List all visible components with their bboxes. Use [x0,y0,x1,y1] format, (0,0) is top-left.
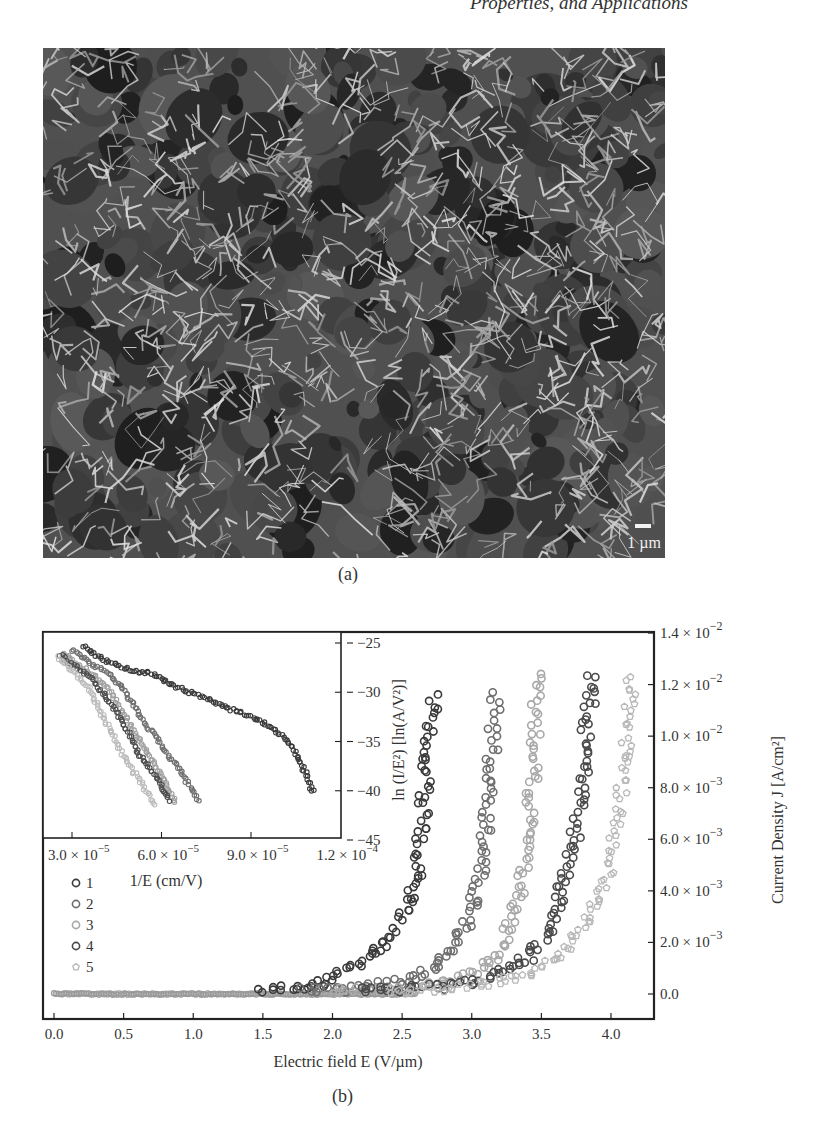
x-axis-title: Electric field E (V/µm) [273,1053,422,1071]
running-header: Properties, and Applications [470,0,688,14]
panel-label-b: (b) [332,1086,353,1107]
x-tick-label: 0.0 [45,1026,64,1042]
inset-y-axis-title: ln (I/E²) [ln(A/V²)] [390,679,408,801]
legend-label: 2 [86,896,94,912]
inset-y-tick-label: −25 [357,635,380,651]
x-tick-label: 3.0 [462,1026,481,1042]
x-tick-label: 2.0 [323,1026,342,1042]
scale-bar-label: 1 µm [627,534,661,552]
legend-label: 5 [86,959,94,975]
legend-label: 1 [86,875,94,891]
y-tick-label: 4.0 × 10−3 [660,877,723,899]
field-emission-chart: 0.00.51.01.52.02.53.03.54.0Electric fiel… [0,590,834,1137]
y-tick-label: 1.2 × 10−2 [660,671,723,693]
panel-label-a: (a) [338,564,358,585]
inset-y-tick-label: −40 [357,783,380,799]
inset-x-axis-title: 1/E (cm/V) [130,872,202,890]
sem-micrograph: 1 µm [43,48,665,558]
y-tick-label: 8.0 × 10−3 [660,774,723,796]
x-tick-label: 3.5 [532,1026,551,1042]
x-tick-label: 0.5 [114,1026,133,1042]
y-tick-label: 2.0 × 10−3 [660,928,723,950]
x-tick-label: 4.0 [602,1026,621,1042]
inset-y-tick-label: −45 [357,832,380,848]
legend-label: 4 [86,938,94,954]
scale-bar [635,524,651,528]
x-tick-label: 1.0 [184,1026,203,1042]
chart-canvas: 0.00.51.01.52.02.53.03.54.0Electric fiel… [0,590,834,1137]
inset-y-tick-label: −35 [357,734,380,750]
y-tick-label: 6.0 × 10−3 [660,825,723,847]
y-tick-label: 0.0 [660,986,679,1002]
y-axis-title: Current Density J [A/cm²] [769,736,787,904]
x-tick-label: 2.5 [393,1026,412,1042]
x-tick-label: 1.5 [254,1026,273,1042]
y-tick-label: 1.4 × 10−2 [660,619,723,641]
legend-label: 3 [86,917,94,933]
inset-y-tick-label: −30 [357,684,380,700]
sem-texture [43,48,665,558]
y-tick-label: 1.0 × 10−2 [660,722,723,744]
